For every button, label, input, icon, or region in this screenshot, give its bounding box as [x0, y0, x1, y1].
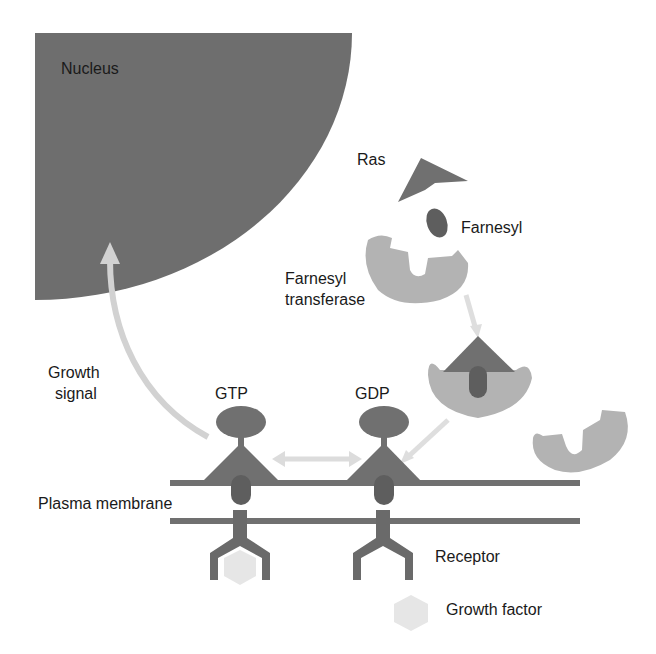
gtp-label: GTP [215, 384, 248, 404]
gtp-head [216, 406, 266, 438]
receptor-label: Receptor [435, 547, 500, 567]
nucleus-label: Nucleus [61, 59, 119, 79]
farnesyl-transferase-top [366, 235, 469, 303]
growth-factor-legend-icon [394, 595, 428, 631]
arrow-to-membrane [410, 420, 448, 455]
farnesyl-anchor-left [231, 475, 251, 505]
arrow-to-complex [466, 295, 476, 330]
growth-factor-label: Growth factor [446, 600, 542, 620]
exchange-arrowhead-left-icon [272, 451, 285, 467]
growth-signal-label-line2: signal [55, 384, 97, 404]
farnesyl-in-complex [469, 366, 487, 398]
farnesyl-transferase-label-line1: Farnesyl [285, 269, 346, 289]
ras-label: Ras [357, 150, 385, 170]
growth-factor-bound [224, 550, 256, 585]
plasma-membrane-label: Plasma membrane [38, 494, 172, 514]
farnesyl-group-free [422, 205, 451, 240]
gdp-label: GDP [355, 384, 390, 404]
ras-protein-free [398, 158, 468, 202]
membrane-line-inner [170, 518, 580, 524]
exchange-arrowhead-right-icon [349, 451, 362, 467]
farnesyl-transferase-label-line2: transferase [285, 290, 365, 310]
farnesyl-label: Farnesyl [461, 218, 522, 238]
farnesyl-anchor-right [374, 475, 394, 505]
gdp-head [359, 406, 409, 438]
growth-signal-label-line1: Growth [48, 363, 100, 383]
diagram-canvas [0, 0, 656, 654]
arrow-to-complex-head-icon [470, 324, 482, 338]
farnesyl-transferase-released [533, 410, 628, 472]
